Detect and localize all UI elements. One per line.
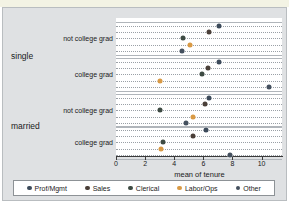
data-point (179, 48, 184, 53)
data-point (204, 128, 209, 133)
x-tick-label: 4 (172, 160, 176, 167)
gridline (116, 130, 282, 131)
gridline (116, 45, 282, 46)
data-point (227, 152, 232, 157)
data-point (207, 30, 212, 35)
chart-figure: 0246810 mean of tenure not college gradc… (0, 0, 289, 202)
data-point (266, 84, 271, 89)
legend-marker-icon (236, 186, 241, 191)
gridline (116, 62, 282, 63)
category-label: college grad (75, 139, 113, 146)
data-point (183, 120, 188, 125)
gridline (116, 104, 282, 105)
data-point (160, 140, 165, 145)
gridline (116, 136, 282, 137)
data-point (207, 96, 212, 101)
group-separator (116, 58, 282, 59)
gridline (116, 26, 282, 27)
legend-marker-icon (177, 186, 182, 191)
legend-marker-icon (128, 186, 133, 191)
x-tick-label: 2 (143, 160, 147, 167)
gridline (116, 51, 282, 52)
group-label-single: single (11, 51, 33, 61)
data-point (199, 72, 204, 77)
data-point (202, 102, 207, 107)
data-point (159, 146, 164, 151)
legend-item[interactable]: Sales (85, 185, 110, 192)
gridline (116, 149, 282, 150)
group-separator (116, 55, 282, 56)
data-point (180, 36, 185, 41)
gridline (116, 38, 282, 39)
plot-area (116, 18, 282, 156)
data-point (157, 78, 162, 83)
legend-label: Sales (93, 185, 111, 192)
group-separator (116, 91, 282, 92)
data-point (217, 24, 222, 29)
gridline (116, 117, 282, 118)
x-tick-label: 0 (114, 160, 118, 167)
legend-label: Labor/Ops (185, 185, 218, 192)
gridline (116, 98, 282, 99)
legend-label: Clerical (136, 185, 159, 192)
gridline (116, 142, 282, 143)
legend-item[interactable]: Prof/Mgmt (27, 185, 67, 192)
legend-item[interactable]: Other (236, 185, 261, 192)
data-point (191, 114, 196, 119)
category-label: not college grad (63, 35, 113, 42)
legend-item[interactable]: Labor/Ops (177, 185, 217, 192)
x-axis-label: mean of tenure (116, 170, 283, 179)
group-separator (116, 94, 282, 95)
legend-label: Other (243, 185, 261, 192)
x-tick-label: 8 (231, 160, 235, 167)
category-label: college grad (75, 71, 113, 78)
chart-legend: Prof/MgmtSalesClericalLabor/OpsOther (13, 180, 275, 196)
chart-panel: 0246810 mean of tenure not college gradc… (2, 7, 287, 201)
legend-item[interactable]: Clerical (128, 185, 159, 192)
gridline (116, 68, 282, 69)
gridline (116, 155, 282, 156)
data-point (217, 60, 222, 65)
group-separator (116, 22, 282, 23)
legend-marker-icon (85, 186, 90, 191)
cut-off-title (0, 0, 289, 7)
gridline (116, 123, 282, 124)
legend-marker-icon (27, 186, 32, 191)
x-axis-line (116, 156, 283, 157)
x-tick-label: 6 (201, 160, 205, 167)
group-separator (116, 126, 282, 127)
legend-label: Prof/Mgmt (35, 185, 67, 192)
x-tick-label: 10 (258, 160, 266, 167)
data-point (205, 66, 210, 71)
gridline (116, 87, 282, 88)
gridline (116, 32, 282, 33)
gridline (116, 110, 282, 111)
gridline (116, 81, 282, 82)
group-label-married: married (11, 121, 40, 131)
category-label: not college grad (63, 107, 113, 114)
data-point (188, 42, 193, 47)
data-point (191, 134, 196, 139)
data-point (157, 108, 162, 113)
